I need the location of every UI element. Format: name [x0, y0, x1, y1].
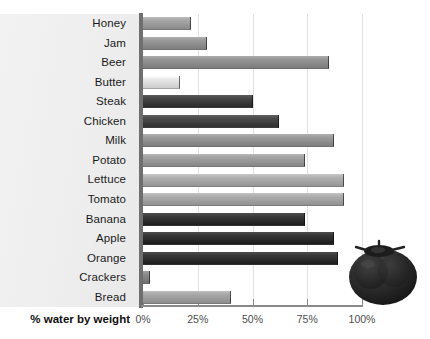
bar-orange — [143, 252, 338, 265]
bar-row: Potato — [0, 151, 430, 171]
bar-butter — [143, 76, 180, 89]
category-label-butter: Butter — [0, 73, 126, 93]
category-label-bread: Bread — [0, 288, 126, 308]
x-axis-title: % water by weight — [8, 313, 130, 325]
x-tick-label-100: 100% — [349, 313, 376, 325]
bar-row: Milk — [0, 131, 430, 151]
bar-row: Tomato — [0, 190, 430, 210]
bar-steak — [143, 95, 253, 108]
x-tick-label-0: 0% — [135, 313, 150, 325]
bar-bread — [143, 291, 231, 304]
category-label-steak: Steak — [0, 92, 126, 112]
bar-lettuce — [143, 174, 344, 187]
bar-tomato — [143, 193, 344, 206]
water-content-bar-chart: HoneyJamBeerButterSteakChickenMilkPotato… — [0, 0, 430, 339]
bar-potato — [143, 154, 305, 167]
bar-beer — [143, 56, 329, 69]
bar-row: Lettuce — [0, 170, 430, 190]
category-label-beer: Beer — [0, 53, 126, 73]
bar-crackers — [143, 271, 150, 284]
bar-honey — [143, 17, 191, 30]
bar-row: Beer — [0, 53, 430, 73]
bar-milk — [143, 134, 334, 147]
category-label-potato: Potato — [0, 151, 126, 171]
bar-row: Chicken — [0, 112, 430, 132]
bar-row: Honey — [0, 14, 430, 34]
x-tick-label-50: 50% — [242, 313, 263, 325]
bar-row: Butter — [0, 73, 430, 93]
category-label-banana: Banana — [0, 210, 126, 230]
category-label-honey: Honey — [0, 14, 126, 34]
category-label-chicken: Chicken — [0, 112, 126, 132]
bar-chicken — [143, 115, 279, 128]
bar-jam — [143, 37, 207, 50]
bar-banana — [143, 213, 305, 226]
category-label-lettuce: Lettuce — [0, 170, 126, 190]
bar-row: Steak — [0, 92, 430, 112]
category-label-crackers: Crackers — [0, 268, 126, 288]
tomato-photo — [346, 238, 420, 308]
category-label-orange: Orange — [0, 249, 126, 269]
bar-row: Banana — [0, 210, 430, 230]
bar-apple — [143, 232, 334, 245]
category-label-jam: Jam — [0, 34, 126, 54]
x-tick-label-25: 25% — [187, 313, 208, 325]
category-label-apple: Apple — [0, 229, 126, 249]
bar-row: Jam — [0, 34, 430, 54]
category-label-tomato: Tomato — [0, 190, 126, 210]
category-label-milk: Milk — [0, 131, 126, 151]
x-tick-label-75: 75% — [297, 313, 318, 325]
